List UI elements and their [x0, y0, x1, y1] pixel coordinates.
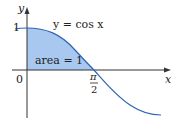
x-axis-arrow — [164, 68, 171, 73]
origin-label: 0 — [16, 74, 23, 85]
tick-label-two: 2 — [91, 85, 97, 95]
tick-label-pi: π — [90, 72, 97, 82]
x-axis-label: x — [165, 74, 171, 85]
curve-label-text: y = cos x — [53, 18, 104, 31]
area-label: area = 1 — [35, 55, 83, 66]
y-axis-label: y — [18, 3, 24, 14]
tick-label-one: 1 — [13, 22, 20, 33]
y-axis-arrow — [25, 7, 30, 14]
curve-label: y = cos x — [53, 19, 104, 30]
